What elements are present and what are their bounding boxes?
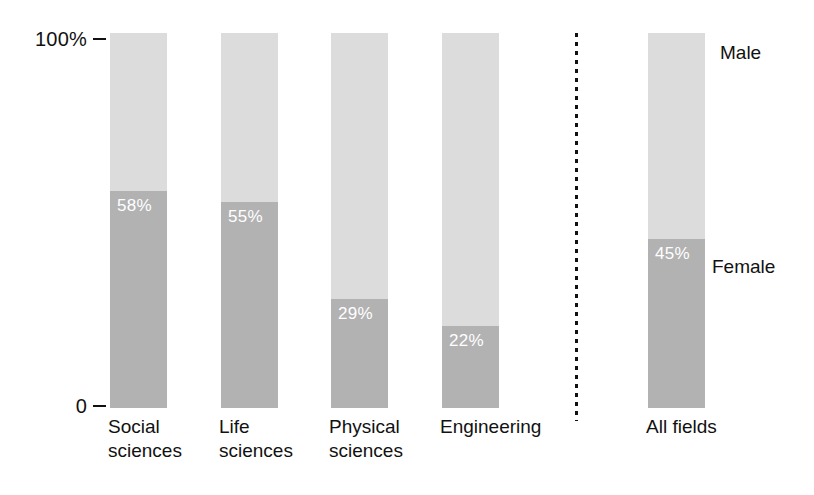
bar-value-label-life-sciences: 55% <box>228 207 263 226</box>
bar-all-fields[interactable]: 45% <box>648 33 705 408</box>
stacked-bar-chart: 100% 0 58% Social sciences 55% Life scie… <box>0 0 814 495</box>
bar-segment-female-all-fields[interactable]: 45% <box>648 239 705 408</box>
y-axis-tick-0: 0 <box>10 396 106 416</box>
bar-segment-female-social-sciences[interactable]: 58% <box>110 191 167 409</box>
bar-physical-sciences[interactable]: 29% <box>331 33 388 408</box>
bar-segment-male-physical-sciences[interactable] <box>331 33 388 299</box>
bar-segment-male-life-sciences[interactable] <box>221 33 278 202</box>
bar-segment-female-physical-sciences[interactable]: 29% <box>331 299 388 408</box>
bar-value-label-all-fields: 45% <box>655 244 690 263</box>
bar-segment-male-engineering[interactable] <box>442 33 499 326</box>
category-label-engineering: Engineering <box>440 415 570 439</box>
legend-item-female: Female <box>712 256 775 278</box>
legend-item-male: Male <box>720 42 761 64</box>
bar-value-label-social-sciences: 58% <box>117 196 152 215</box>
section-divider-dotted-line <box>575 33 578 421</box>
bar-life-sciences[interactable]: 55% <box>221 33 278 408</box>
bar-segment-female-engineering[interactable]: 22% <box>442 326 499 409</box>
y-axis-tick-100: 100% <box>10 29 106 49</box>
category-label-all-fields: All fields <box>646 415 776 439</box>
bar-segment-male-all-fields[interactable] <box>648 33 705 239</box>
bar-value-label-engineering: 22% <box>449 331 484 350</box>
bar-value-label-physical-sciences: 29% <box>338 304 373 323</box>
bar-social-sciences[interactable]: 58% <box>110 33 167 408</box>
bar-segment-male-social-sciences[interactable] <box>110 33 167 191</box>
y-axis-tick-0-dash <box>93 405 106 408</box>
y-axis-tick-100-dash <box>93 38 106 41</box>
bar-engineering[interactable]: 22% <box>442 33 499 408</box>
bar-segment-female-life-sciences[interactable]: 55% <box>221 202 278 408</box>
y-axis-tick-0-label: 0 <box>76 395 87 417</box>
y-axis-tick-100-label: 100% <box>35 28 87 50</box>
